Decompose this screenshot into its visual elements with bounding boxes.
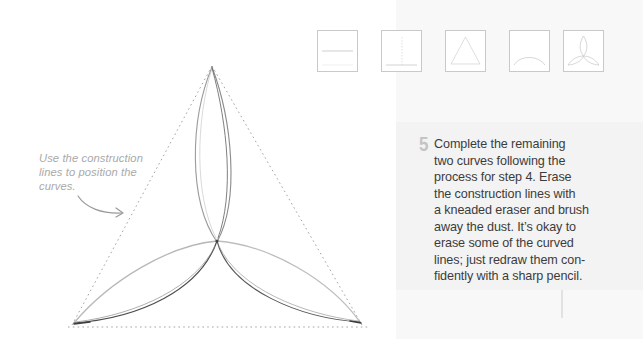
thumbnail-step-5 <box>563 30 604 72</box>
step-instruction-text: Complete the remaining two curves follow… <box>434 136 624 285</box>
step-text-line: fidently with a sharp pencil. <box>434 268 624 285</box>
page-smudge-mark <box>561 290 563 318</box>
step-text-line: a kneaded eraser and brush <box>434 202 624 219</box>
instruction-page: Use the construction lines to position t… <box>0 0 643 339</box>
curved-arrow-icon <box>74 192 130 220</box>
step-text-line: two curves following the <box>434 153 624 170</box>
thumbnail-step-3 <box>445 30 486 72</box>
step-text-line: process for step 4. Erase <box>434 169 624 186</box>
intersection-point <box>215 239 218 242</box>
base-line-icon <box>318 31 357 71</box>
step-text-line: the construction lines with <box>434 186 624 203</box>
triquetra-icon <box>564 31 603 71</box>
step-text-line: erase some of the curved <box>434 235 624 252</box>
thumbnail-step-1 <box>317 30 358 72</box>
step-text-line: away the dust. It’s okay to <box>434 219 624 236</box>
center-line-icon <box>382 31 421 71</box>
arc-icon <box>510 31 549 71</box>
step-text-line: lines; just redraw them con- <box>434 252 624 269</box>
thumbnail-step-2 <box>381 30 422 72</box>
annotation-line: curves. <box>39 179 159 193</box>
step-number: 5 <box>419 134 428 154</box>
thumbnail-step-4 <box>509 30 550 72</box>
step-text-line: Complete the remaining <box>434 136 624 153</box>
top-petal <box>195 67 231 242</box>
annotation-note: Use the construction lines to position t… <box>39 151 159 193</box>
annotation-line: lines to position the <box>39 165 159 179</box>
annotation-line: Use the construction <box>39 151 159 165</box>
right-petal <box>217 241 361 323</box>
triangle-icon <box>446 31 485 71</box>
